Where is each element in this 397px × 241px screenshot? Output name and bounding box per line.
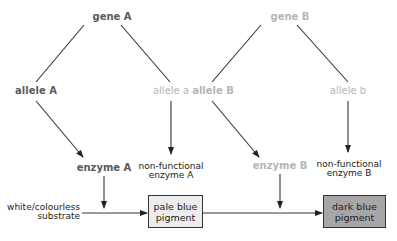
enzyme-b-label: enzyme B [253,161,308,171]
nonfunctional-enzyme-a-line2: enzyme A [149,171,194,180]
gene-a-label: gene A [92,12,131,22]
allele-a-label: allele a [153,86,189,96]
enzyme-a-label: enzyme A [77,163,132,173]
dark-pigment-line1: dark blue [324,201,385,212]
allele-b-label: allele b [330,86,366,96]
allele-B-label: allele B [192,86,234,96]
substrate-line2: substrate [37,212,80,221]
dark-blue-pigment-box: dark blue pigment [323,195,386,228]
dark-pigment-line2: pigment [324,212,385,223]
nonfunctional-enzyme-b-line2: enzyme B [327,169,372,178]
pale-pigment-line2: pigment [149,212,202,223]
pale-blue-pigment-box: pale blue pigment [148,195,203,228]
gene-b-label: gene B [271,12,310,22]
pale-pigment-line1: pale blue [149,201,202,212]
allele-A-label: allele A [15,86,57,96]
